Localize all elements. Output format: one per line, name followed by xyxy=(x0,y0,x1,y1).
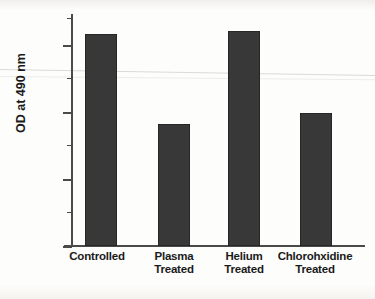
y-tick-major-075 xyxy=(63,45,72,47)
x-category-label-chlorohxidine-treated: Chlorohxidine Treated xyxy=(255,250,375,276)
y-axis-title: OD at 490 nm xyxy=(14,28,28,158)
bar-controlled[interactable] xyxy=(85,34,117,246)
x-category-line1-chlorohxidine: Chlorohxidine xyxy=(255,250,375,263)
y-tick-major-025 xyxy=(63,179,72,181)
bar-chlorohxidine-treated[interactable] xyxy=(300,113,332,246)
y-tick-major-0 xyxy=(63,246,72,248)
bar-plasma-treated[interactable] xyxy=(158,124,190,246)
bar-helium-treated[interactable] xyxy=(228,31,260,246)
plot-area xyxy=(72,14,365,246)
y-tick-major-050 xyxy=(63,112,72,114)
x-category-line2-chlorohxidine: Treated xyxy=(255,263,375,276)
bar-chart-figure: OD at 490 nm 0.00 0.25 0.50 0.75 Control… xyxy=(0,0,375,299)
